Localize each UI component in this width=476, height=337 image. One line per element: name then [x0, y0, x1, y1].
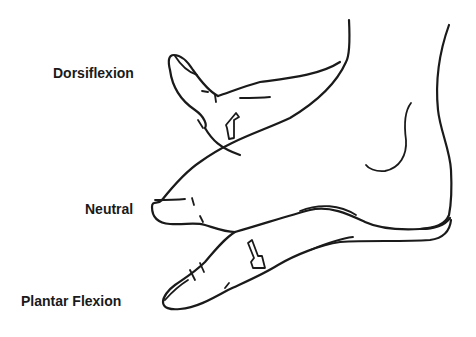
- neutral-foot: [152, 198, 450, 232]
- arrow-down-icon: [248, 240, 265, 268]
- leg-front-outline: [162, 20, 350, 200]
- dorsiflexion-label: Dorsiflexion: [53, 65, 134, 81]
- plantar-flexion-label: Plantar Flexion: [21, 293, 121, 309]
- ankle-bone-curve: [366, 103, 411, 171]
- dorsiflexion-foot: [169, 55, 340, 155]
- plantar-flexion-foot: [163, 220, 451, 309]
- arrow-up-icon: [226, 113, 239, 139]
- leg-back-outline: [420, 25, 451, 229]
- foot-motion-diagram: Dorsiflexion Neutral Plantar Flexion: [0, 0, 476, 337]
- foot-illustration: [0, 0, 476, 337]
- neutral-label: Neutral: [85, 201, 133, 217]
